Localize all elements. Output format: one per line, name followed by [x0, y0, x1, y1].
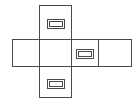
- left-face: [13, 40, 40, 67]
- back-face: [99, 40, 132, 67]
- handles-group: [48, 20, 94, 89]
- handle-bottom-inner: [50, 82, 63, 87]
- cube-net-drawing: [0, 0, 137, 106]
- front-face: [40, 40, 72, 67]
- cube-net-figure: [0, 0, 137, 106]
- faces-group: [13, 6, 132, 98]
- handle-right-inner: [79, 52, 92, 57]
- handle-top-inner: [50, 22, 63, 27]
